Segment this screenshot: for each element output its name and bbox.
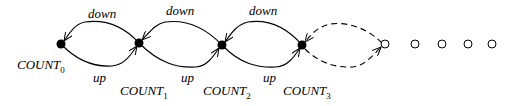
- label-up-3: up: [263, 70, 277, 85]
- edge-down-2-1: [142, 21, 222, 45]
- state-label-count-3: COUNT3: [283, 83, 331, 101]
- continuation-node: [438, 40, 446, 48]
- edge-dashed-up: [305, 47, 381, 67]
- subscript: 3: [326, 91, 331, 101]
- state-label-count-2: COUNT2: [203, 83, 251, 101]
- subscript: 2: [246, 91, 251, 101]
- continuation-node: [464, 40, 472, 48]
- state-count-3: [298, 41, 307, 50]
- continuation-node: [381, 40, 389, 48]
- subscript: 0: [60, 65, 65, 75]
- state-diagram: down down down up up up COUNT0 COUNT1 CO…: [0, 0, 515, 106]
- label-down-1: down: [88, 6, 116, 21]
- edge-dashed-down: [305, 24, 382, 43]
- label-up-1: up: [93, 70, 107, 85]
- label-down-3: down: [249, 3, 277, 18]
- edge-up-1-2: [139, 43, 219, 67]
- state-count-0: [57, 40, 66, 49]
- state-label-count-1: COUNT1: [120, 83, 168, 101]
- state-count-1: [135, 39, 144, 48]
- edge-up-2-3: [222, 45, 300, 67]
- label-up-2: up: [181, 70, 195, 85]
- edge-down-3-2: [225, 21, 302, 45]
- state-count-2: [218, 41, 227, 50]
- label-down-2: down: [166, 3, 194, 18]
- subscript: 1: [163, 91, 168, 101]
- continuation-node: [488, 40, 496, 48]
- edge-up-0-1: [61, 44, 137, 66]
- edge-down-1-0: [64, 21, 139, 43]
- state-label-count-0: COUNT0: [17, 57, 65, 75]
- continuation-node: [411, 40, 419, 48]
